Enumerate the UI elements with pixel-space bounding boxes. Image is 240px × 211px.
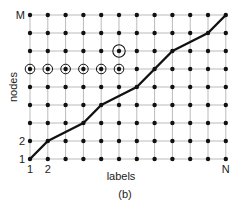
grid-node	[28, 157, 32, 161]
grid-node	[188, 85, 192, 89]
grid-node	[63, 67, 67, 71]
grid-node	[224, 85, 228, 89]
grid-node	[152, 67, 156, 71]
grid-node	[117, 67, 121, 71]
grid-node	[170, 157, 174, 161]
grid-node	[63, 13, 67, 17]
grid-node	[135, 103, 139, 107]
grid-node	[117, 157, 121, 161]
grid-node	[206, 85, 210, 89]
grid-node	[28, 139, 32, 143]
grid-node	[152, 31, 156, 35]
grid-node	[188, 157, 192, 161]
grid-node	[117, 31, 121, 35]
grid-node	[206, 67, 210, 71]
grid-node	[224, 49, 228, 53]
grid-node	[81, 139, 85, 143]
grid-node	[28, 31, 32, 35]
grid-node	[188, 103, 192, 107]
grid-node	[224, 31, 228, 35]
grid-node	[135, 49, 139, 53]
grid-node	[63, 103, 67, 107]
grid-node	[117, 103, 121, 107]
grid-lines	[30, 15, 226, 159]
grid-node	[63, 121, 67, 125]
grid-node	[99, 31, 103, 35]
grid-node	[46, 157, 50, 161]
grid-node	[188, 121, 192, 125]
x-tick-label: 2	[45, 163, 51, 175]
grid-node	[224, 13, 228, 17]
grid-node	[135, 85, 139, 89]
grid-node	[46, 121, 50, 125]
grid-node	[135, 67, 139, 71]
grid-node	[28, 67, 32, 71]
grid-node	[28, 121, 32, 125]
grid-node	[170, 139, 174, 143]
grid-node	[81, 49, 85, 53]
grid-node	[152, 49, 156, 53]
grid-node	[117, 121, 121, 125]
grid-node	[224, 121, 228, 125]
grid-node	[81, 67, 85, 71]
grid-node	[81, 13, 85, 17]
grid-node	[46, 103, 50, 107]
lattice-diagram: 12N 12M labels nodes (b)	[0, 0, 240, 211]
grid-node	[152, 121, 156, 125]
grid-node	[99, 67, 103, 71]
grid-node	[224, 157, 228, 161]
grid-node	[117, 85, 121, 89]
grid-node	[188, 67, 192, 71]
grid-node	[152, 85, 156, 89]
grid-node	[206, 103, 210, 107]
grid-node	[152, 103, 156, 107]
grid-node	[188, 49, 192, 53]
grid-node	[170, 121, 174, 125]
grid-node	[99, 85, 103, 89]
x-axis-title: labels	[107, 170, 136, 182]
grid-node	[28, 49, 32, 53]
grid-node	[63, 31, 67, 35]
grid-node	[170, 31, 174, 35]
grid-node	[81, 31, 85, 35]
grid-node	[63, 139, 67, 143]
grid-node	[46, 31, 50, 35]
grid-node	[117, 49, 121, 53]
grid-node	[206, 157, 210, 161]
grid-node	[63, 85, 67, 89]
grid-node	[99, 49, 103, 53]
y-axis-title: nodes	[7, 72, 19, 102]
grid-node	[46, 49, 50, 53]
grid-node	[117, 13, 121, 17]
grid-node	[170, 49, 174, 53]
grid-node	[170, 67, 174, 71]
grid-node	[99, 139, 103, 143]
y-tick-label: M	[16, 9, 25, 21]
grid-node	[135, 157, 139, 161]
grid-node	[81, 121, 85, 125]
grid-node	[206, 13, 210, 17]
grid-node	[46, 13, 50, 17]
grid-node	[206, 49, 210, 53]
grid-node	[117, 139, 121, 143]
grid-node	[152, 157, 156, 161]
grid-node	[28, 103, 32, 107]
y-tick-label: 1	[19, 153, 25, 165]
y-tick-label: 2	[19, 135, 25, 147]
grid-node	[63, 157, 67, 161]
grid-node	[206, 139, 210, 143]
grid-node	[135, 121, 139, 125]
grid-node	[28, 13, 32, 17]
grid-node	[99, 103, 103, 107]
grid-node	[170, 13, 174, 17]
grid-node	[206, 121, 210, 125]
grid-node	[46, 85, 50, 89]
grid-node	[81, 103, 85, 107]
figure-caption: (b)	[118, 188, 131, 200]
grid-node	[28, 85, 32, 89]
grid-node	[170, 85, 174, 89]
grid-node	[152, 139, 156, 143]
grid-node	[46, 67, 50, 71]
grid-node	[63, 49, 67, 53]
grid-node	[206, 31, 210, 35]
